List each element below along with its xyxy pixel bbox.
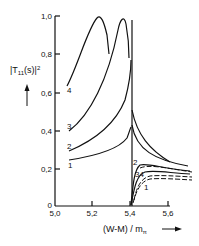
y-tick-1.0: 1,0: [41, 12, 53, 21]
label-right-1: 1: [144, 183, 149, 192]
curve-3: [69, 19, 129, 131]
chart: 1,0 0,8 0,6 0,4 0,2 0 5,0 5,2 5,4 5,6 |T…: [0, 0, 199, 246]
curve-1: [69, 127, 131, 160]
y-axis-title: |T11(s)|2: [10, 65, 41, 76]
curve-4: [67, 17, 109, 86]
label-curve-2: 2: [67, 142, 72, 151]
axes: [55, 16, 170, 206]
label-right-2: 2: [133, 158, 138, 167]
y-tick-0.6: 0,6: [41, 89, 53, 98]
x-tick-5.2: 5,2: [86, 209, 98, 218]
label-curve-3: 3: [67, 122, 72, 131]
x-arrow-icon: [162, 227, 182, 232]
y-tick-0.4: 0,4: [41, 127, 53, 136]
x-tick-5.4: 5,4: [124, 209, 136, 218]
curve-1b-dashed: [133, 179, 192, 203]
y-tick-0.8: 0,8: [41, 50, 53, 59]
y-arrow-icon: [25, 84, 30, 106]
x-tick-5.6: 5,6: [162, 209, 174, 218]
curve-2-right: [132, 125, 188, 166]
label-curve-1: 1: [68, 161, 73, 170]
curve-2: [69, 60, 131, 151]
x-axis-title: (W-M) / mπ: [103, 224, 147, 235]
label-curve-4: 4: [67, 86, 72, 95]
y-tick-0.2: 0,2: [41, 165, 53, 174]
label-right-34: 34: [135, 170, 144, 179]
x-tick-5.0: 5,0: [49, 209, 61, 218]
